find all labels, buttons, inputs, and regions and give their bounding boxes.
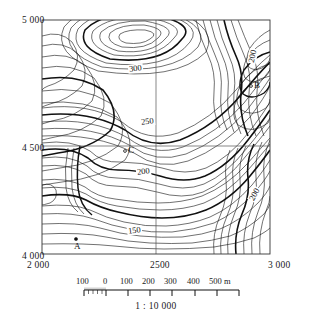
scalebar-tick-0: 0 — [103, 277, 107, 286]
point-label-c: C — [128, 146, 134, 155]
x-axis-label-right: 3 000 — [268, 261, 290, 271]
point-label-a: A — [74, 242, 81, 251]
y-axis-label-middle: 4 500 — [22, 144, 44, 154]
scalebar-tick-100: 100 — [120, 277, 133, 286]
x-axis-label-left: 2 000 — [27, 261, 49, 271]
contour-label-150: 150 — [127, 225, 143, 235]
scalebar-tick-100-left: 100 — [76, 277, 89, 286]
scale-ratio-text: 1 : 10 000 — [0, 301, 312, 311]
contour-label-250: 250 — [140, 116, 156, 126]
contour-map-svg — [0, 0, 312, 324]
scalebar-tick-200: 200 — [142, 277, 155, 286]
y-axis-label-top: 5 000 — [22, 16, 44, 26]
map-canvas: 5 000 4 500 4 000 2 000 2500 3 000 300 2… — [0, 0, 312, 324]
contour-label-300: 300 — [128, 63, 144, 73]
scalebar-tick-300: 300 — [164, 277, 177, 286]
scalebar-tick-400: 400 — [187, 277, 200, 286]
point-label-b: B — [254, 81, 260, 90]
scale-bar — [84, 288, 239, 297]
x-axis-label-middle: 2500 — [150, 261, 170, 271]
scalebar-tick-500-m: 500 m — [209, 277, 231, 286]
topographic-map-figure: 5 000 4 500 4 000 2 000 2500 3 000 300 2… — [0, 0, 312, 324]
contour-label-200: 200 — [136, 166, 152, 176]
